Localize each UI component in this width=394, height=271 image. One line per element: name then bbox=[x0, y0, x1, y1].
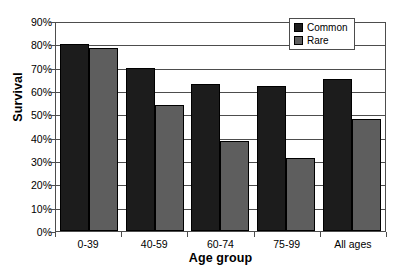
bar-common-40-59 bbox=[126, 68, 155, 231]
y-axis-tick-label: 0% bbox=[12, 227, 52, 238]
bar-group bbox=[191, 23, 249, 231]
y-axis-tick-label: 80% bbox=[12, 40, 52, 51]
x-axis-tick-label: 60-74 bbox=[187, 238, 253, 252]
y-axis-tick-label: 30% bbox=[12, 157, 52, 168]
x-axis-title: Age group bbox=[55, 251, 386, 265]
y-axis-tick-label: 90% bbox=[12, 17, 52, 28]
x-axis-tick-mark bbox=[187, 232, 188, 237]
legend-label: Rare bbox=[307, 35, 329, 46]
y-axis-tick-label: 40% bbox=[12, 133, 52, 144]
y-axis-tick-label: 20% bbox=[12, 180, 52, 191]
legend-item-common: Common bbox=[294, 22, 348, 33]
bar-rare-60-74 bbox=[220, 141, 249, 231]
legend-swatch-icon bbox=[294, 36, 303, 45]
legend-label: Common bbox=[307, 22, 348, 33]
plot-area bbox=[55, 22, 386, 232]
x-axis-tick-label: All ages bbox=[320, 238, 386, 252]
bar-rare-40-59 bbox=[155, 105, 184, 231]
x-axis-tick-label: 40-59 bbox=[121, 238, 187, 252]
legend-item-rare: Rare bbox=[294, 35, 348, 46]
survival-by-age-group-bar-chart: Survival 0%10%20%30%40%50%60%70%80%90% 0… bbox=[0, 0, 394, 271]
bar-group bbox=[257, 23, 315, 231]
x-axis-tick-label: 75-99 bbox=[254, 238, 320, 252]
bar-group bbox=[126, 23, 184, 231]
y-axis-tick-label: 10% bbox=[12, 203, 52, 214]
legend-swatch-icon bbox=[294, 23, 303, 32]
x-axis-tick-mark bbox=[320, 232, 321, 237]
bar-common-0-39 bbox=[60, 44, 89, 231]
x-axis-tick-mark bbox=[55, 232, 56, 237]
x-axis-tick-labels: 0-3940-5960-7475-99All ages bbox=[55, 238, 386, 252]
y-axis-tick-labels: 0%10%20%30%40%50%60%70%80%90% bbox=[12, 16, 52, 232]
bar-rare-75-99 bbox=[286, 158, 315, 232]
chart-legend: CommonRare bbox=[289, 18, 355, 50]
x-axis-tick-mark bbox=[121, 232, 122, 237]
y-axis-tick-label: 50% bbox=[12, 110, 52, 121]
bar-groups-container bbox=[56, 23, 385, 231]
bar-rare-0-39 bbox=[89, 48, 118, 231]
bar-common-75-99 bbox=[257, 86, 286, 231]
x-axis-tick-mark bbox=[254, 232, 255, 237]
x-axis-tick-mark bbox=[386, 232, 387, 237]
x-axis-tick-label: 0-39 bbox=[55, 238, 121, 252]
bar-common-all-ages bbox=[323, 79, 352, 231]
bar-group bbox=[323, 23, 381, 231]
bar-common-60-74 bbox=[191, 84, 220, 231]
bar-rare-all-ages bbox=[352, 119, 381, 231]
bar-group bbox=[60, 23, 118, 231]
y-axis-tick-label: 70% bbox=[12, 63, 52, 74]
y-axis-tick-label: 60% bbox=[12, 87, 52, 98]
